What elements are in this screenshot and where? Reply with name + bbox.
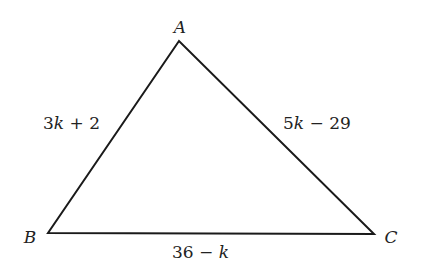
triangle-diagram: A B C 3k + 2 5k − 29 36 − k [0, 0, 422, 276]
side-ac-var: k [294, 113, 304, 133]
side-ac-rest: − 29 [304, 113, 351, 133]
vertex-label-a: A [172, 17, 186, 37]
side-ab-rest: + 2 [64, 113, 100, 133]
vertex-label-c: C [384, 227, 397, 247]
triangle-abc [48, 41, 374, 234]
vertex-label-b: B [23, 227, 37, 247]
side-ab-coef: 3 [43, 113, 54, 133]
side-label-ab: 3k + 2 [43, 113, 100, 133]
side-label-bc: 36 − k [172, 242, 229, 262]
side-ab-var: k [54, 113, 64, 133]
side-ac-coef: 5 [283, 113, 294, 133]
side-label-ac: 5k − 29 [283, 113, 351, 133]
side-bc-var: k [219, 242, 229, 262]
side-bc-pre: 36 − [172, 242, 219, 262]
